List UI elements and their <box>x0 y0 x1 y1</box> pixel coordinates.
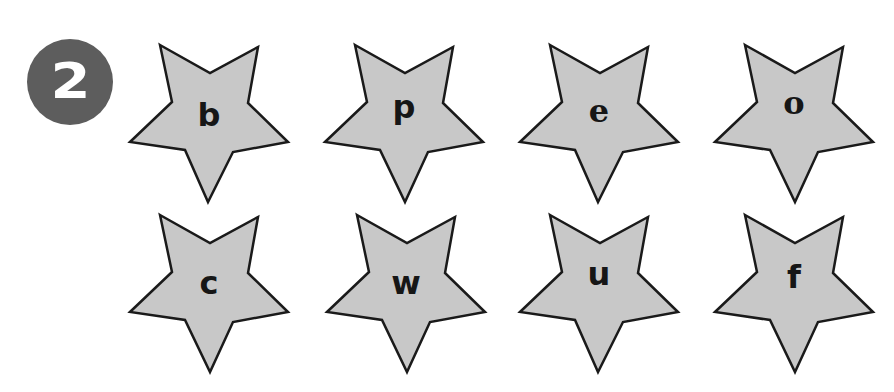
star-item[interactable]: f <box>714 213 874 373</box>
star-item[interactable]: e <box>519 43 679 203</box>
star-letter: w <box>326 267 486 299</box>
star-letter: p <box>324 91 484 123</box>
star-item[interactable]: p <box>324 43 484 203</box>
star-letter: u <box>519 258 679 290</box>
star-letter: e <box>519 95 679 127</box>
exercise-number: 2 <box>50 56 90 106</box>
star-item[interactable]: b <box>129 43 289 203</box>
star-item[interactable]: o <box>714 43 874 203</box>
star-item[interactable]: u <box>519 213 679 373</box>
star-icon <box>519 213 679 373</box>
exercise-number-badge: 2 <box>27 39 113 125</box>
star-letter: b <box>129 99 289 131</box>
star-item[interactable]: w <box>326 213 486 373</box>
star-letter: c <box>129 267 289 299</box>
star-letter: o <box>714 87 874 119</box>
star-icon <box>714 43 874 203</box>
star-letter: f <box>714 261 874 293</box>
star-item[interactable]: c <box>129 213 289 373</box>
